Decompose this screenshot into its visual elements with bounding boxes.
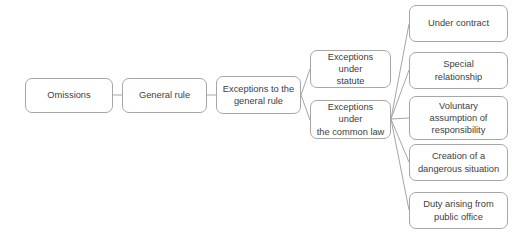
node-omissions[interactable]: Omissions — [25, 78, 113, 113]
node-label: Omissions — [47, 89, 90, 101]
node-label: Duty arising from public office — [423, 198, 493, 223]
node-exceptions-under-the-common-law[interactable]: Exceptions under the common law — [310, 100, 391, 139]
node-exceptions-under-statute[interactable]: Exceptions under statute — [310, 50, 391, 88]
connector-exceptions-to-statute — [301, 69, 310, 95]
connector-common-law-to-voluntary-assumption — [391, 118, 409, 119]
connector-exceptions-to-common-law — [301, 95, 310, 120]
node-creation-of-a-dangerous-situation[interactable]: Creation of a dangerous situation — [409, 144, 508, 181]
connector-common-law-to-special-relationship — [391, 70, 409, 119]
connector-common-law-to-duty-public-office — [391, 119, 409, 210]
node-special-relationship[interactable]: Special relationship — [409, 52, 508, 89]
node-under-contract[interactable]: Under contract — [409, 5, 508, 42]
node-label: General rule — [139, 89, 190, 101]
connector-common-law-to-under-contract — [391, 24, 409, 119]
node-general-rule[interactable]: General rule — [122, 78, 207, 113]
node-label: Special relationship — [435, 58, 483, 83]
connector-common-law-to-creation-of-danger — [391, 119, 409, 162]
node-label: Exceptions to the general rule — [223, 83, 294, 108]
node-duty-arising-from-public-office[interactable]: Duty arising from public office — [409, 192, 508, 229]
flowchart-diagram: Omissions General rule Exceptions to the… — [0, 0, 522, 243]
node-label: Exceptions under the common law — [315, 101, 386, 138]
node-exceptions-to-the-general-rule[interactable]: Exceptions to the general rule — [216, 76, 301, 114]
node-label: Exceptions under statute — [315, 51, 386, 88]
node-label: Voluntary assumption of responsibility — [430, 100, 488, 137]
node-label: Under contract — [428, 17, 489, 29]
node-voluntary-assumption-of-responsibility[interactable]: Voluntary assumption of responsibility — [409, 96, 508, 140]
node-label: Creation of a dangerous situation — [418, 150, 499, 175]
